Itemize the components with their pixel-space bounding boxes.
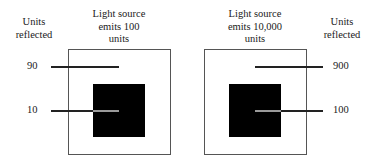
right-leader-line-black-outside: [281, 110, 323, 112]
right-source-label: Light source emits 10,000 units: [218, 8, 292, 46]
left-leader-line-black-outside: [51, 110, 93, 112]
right-value-black: 100: [333, 104, 349, 116]
left-value-black: 10: [27, 104, 38, 116]
right-leader-line-black-inside: [255, 110, 281, 112]
right-leader-line-white: [255, 66, 323, 68]
left-leader-line-white: [51, 66, 119, 68]
left-leader-line-black-inside: [93, 110, 119, 112]
left-source-label: Light source emits 100 units: [84, 8, 154, 46]
right-value-white: 900: [333, 60, 349, 72]
left-axis-label: Units reflected: [12, 16, 56, 41]
left-value-white: 90: [27, 60, 38, 72]
right-axis-label: Units reflected: [320, 16, 364, 41]
